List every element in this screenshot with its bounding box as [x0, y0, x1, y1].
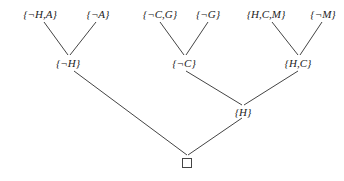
resolvent-h-c: {H,C} [285, 58, 312, 69]
edge-na-nh [70, 22, 96, 55]
edge-h-empty [188, 118, 242, 155]
edges [0, 0, 344, 181]
edge-hcm-hc [272, 22, 298, 55]
edge-ng-nc [186, 22, 208, 55]
leaf-clause-not-h-a: {¬H,A} [23, 9, 57, 20]
edge-nm-hc [300, 22, 322, 55]
edge-nh-empty [74, 71, 187, 155]
edge-ncg-nc [160, 22, 184, 55]
edge-nc-h [186, 71, 242, 105]
empty-clause-box [182, 158, 192, 168]
resolvent-not-h: {¬H} [56, 58, 80, 69]
leaf-clause-not-a: {¬A} [87, 9, 110, 20]
leaf-clause-not-g: {¬G} [196, 9, 220, 20]
leaf-clause-not-m: {¬M} [310, 9, 335, 20]
leaf-clause-h-c-m: {H,C,M} [247, 9, 286, 20]
resolvent-h: {H} [235, 107, 252, 118]
resolvent-not-c: {¬C} [172, 58, 196, 69]
leaf-clause-not-c-g: {¬C,G} [143, 9, 177, 20]
edge-nha-nh [44, 22, 68, 55]
edge-hc-h [244, 71, 298, 105]
